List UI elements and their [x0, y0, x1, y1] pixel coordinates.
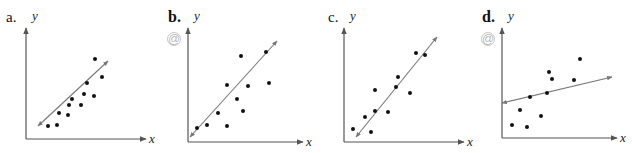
data-point [93, 57, 97, 61]
data-point [267, 81, 271, 85]
panel-label: d. [482, 8, 495, 25]
data-point [85, 81, 89, 85]
at-icon: @ [168, 32, 180, 46]
data-point [235, 97, 239, 101]
trend-line [38, 61, 108, 126]
x-axis-label: x [619, 130, 626, 145]
data-point [518, 108, 522, 112]
scatter-panel-a: a.yx [6, 8, 155, 146]
at-icon: @ [482, 32, 494, 46]
data-point [66, 113, 70, 117]
data-point [195, 126, 199, 130]
data-point [547, 70, 551, 74]
data-point [578, 57, 582, 61]
data-point [241, 109, 245, 113]
x-axis-label: x [148, 131, 155, 146]
data-point [373, 88, 377, 92]
data-point [246, 84, 250, 88]
y-axis-label: y [348, 8, 356, 23]
data-point [386, 110, 390, 114]
x-axis-label: x [305, 134, 312, 149]
data-point [414, 51, 418, 55]
data-point [351, 127, 355, 131]
data-point [67, 103, 71, 107]
data-point [525, 125, 529, 129]
data-point [363, 115, 367, 119]
data-point [55, 123, 59, 127]
x-axis-label: x [466, 134, 473, 149]
data-point [510, 123, 514, 127]
data-point [528, 95, 532, 99]
data-point [572, 78, 576, 82]
data-point [216, 111, 220, 115]
y-axis-label: y [506, 8, 514, 23]
y-axis-label: y [192, 8, 200, 23]
data-point [57, 111, 61, 115]
data-point [264, 50, 268, 54]
panel-label: a. [6, 9, 16, 25]
data-point [92, 94, 96, 98]
data-point [70, 97, 74, 101]
data-point [394, 85, 398, 89]
data-point [423, 53, 427, 57]
data-point [100, 75, 104, 79]
data-point [545, 91, 549, 95]
scatter-plot-figure: a.yxb.yx@c.yxd.yx@ [0, 0, 632, 153]
scatter-panel-d: d.yx@ [482, 8, 627, 145]
data-point [539, 114, 543, 118]
data-point [225, 124, 229, 128]
data-point [239, 54, 243, 58]
scatter-panel-b: b.yx@ [168, 8, 313, 149]
data-point [225, 83, 229, 87]
data-point [408, 91, 412, 95]
data-point [205, 123, 209, 127]
panel-label: b. [168, 8, 181, 25]
data-point [550, 77, 554, 81]
y-axis-label: y [30, 8, 38, 23]
data-point [82, 92, 86, 96]
data-point [46, 124, 50, 128]
trend-line [502, 77, 612, 103]
panel-label: c. [328, 9, 338, 25]
data-point [396, 75, 400, 79]
scatter-panel-c: c.yx [328, 8, 473, 149]
data-point [373, 109, 377, 113]
trend-line [190, 41, 277, 137]
data-point [369, 130, 373, 134]
data-point [79, 103, 83, 107]
